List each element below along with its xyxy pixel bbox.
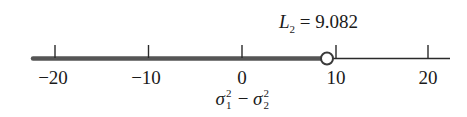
open-endpoint-circle — [321, 53, 333, 65]
axis-label-term2: σ — [253, 88, 262, 109]
bound-value: 9.082 — [315, 11, 358, 32]
axis-label-term1-sup: 2 — [226, 88, 232, 99]
axis-label-term2-sup: 2 — [263, 88, 269, 99]
bound-symbol: L — [279, 11, 290, 32]
axis-label-term2-sub: 2 — [263, 100, 269, 111]
tick-label-20: 20 — [419, 68, 438, 87]
confidence-bound-number-line: L2 = 9.082 −20 −10 0 10 20 σ21 − σ22 — [0, 0, 467, 117]
axis-label-operator: − — [238, 88, 249, 109]
axis-label: σ21 − σ22 — [216, 89, 271, 108]
tick-label-neg20: −20 — [38, 68, 68, 87]
axis-label-term1-sub: 1 — [226, 100, 232, 111]
axis-label-term1: σ — [216, 88, 225, 109]
tick-label-0: 0 — [237, 68, 247, 87]
tick-label-10: 10 — [327, 68, 346, 87]
bound-equals: = — [300, 11, 311, 32]
tick-label-neg10: −10 — [131, 68, 161, 87]
bound-annotation: L2 = 9.082 — [279, 12, 358, 31]
bound-subscript: 2 — [290, 23, 296, 35]
